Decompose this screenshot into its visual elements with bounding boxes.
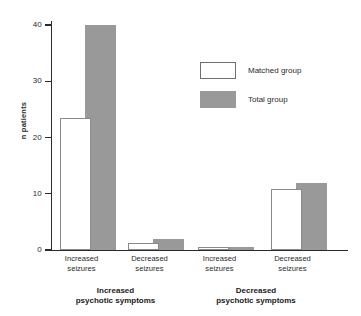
x-category-line: Decreased: [112, 254, 188, 264]
x-category-label-0: Increasedseizures: [44, 254, 120, 273]
y-axis-line: [51, 21, 52, 251]
x-group-label-line1: Decreased: [181, 286, 331, 296]
y-tick-0: [45, 249, 51, 250]
y-tick-label-30: 30: [22, 76, 42, 85]
matched-swatch-icon: [200, 62, 236, 79]
x-group-label-1: Decreasedpsychotic symptoms: [181, 286, 331, 306]
y-tick-label-0: 0: [22, 245, 42, 254]
y-axis-label: n patients: [19, 91, 28, 151]
x-category-label-2: Increasedseizures: [182, 254, 258, 273]
bar-matched-2: [198, 247, 229, 250]
y-tick-label-40: 40: [22, 20, 42, 29]
bar-matched-0: [60, 118, 91, 250]
y-tick-10: [45, 193, 51, 194]
x-group-label-line2: psychotic symptoms: [181, 296, 331, 306]
y-tick-40: [45, 24, 51, 25]
x-category-line: Decreased: [255, 254, 331, 264]
total-swatch-icon: [200, 91, 236, 108]
x-category-line: seizures: [44, 264, 120, 274]
x-group-label-0: Increasedpsychotic symptoms: [41, 286, 191, 306]
bar-chart: n patients 010203040 IncreasedseizuresDe…: [0, 0, 361, 316]
x-category-line: Increased: [44, 254, 120, 264]
legend-label-matched: Matched group: [248, 66, 301, 75]
y-tick-20: [45, 137, 51, 138]
x-category-line: seizures: [182, 264, 258, 274]
y-tick-label-10: 10: [22, 189, 42, 198]
x-category-label-1: Decreasedseizures: [112, 254, 188, 273]
x-category-label-3: Decreasedseizures: [255, 254, 331, 273]
x-category-line: Increased: [182, 254, 258, 264]
bar-matched-3: [271, 189, 302, 250]
x-category-line: seizures: [112, 264, 188, 274]
x-group-label-line2: psychotic symptoms: [41, 296, 191, 306]
x-category-line: seizures: [255, 264, 331, 274]
bar-matched-1: [128, 243, 159, 250]
y-tick-30: [45, 81, 51, 82]
x-group-label-line1: Increased: [41, 286, 191, 296]
legend-label-total: Total group: [248, 95, 288, 104]
y-tick-label-20: 20: [22, 133, 42, 142]
